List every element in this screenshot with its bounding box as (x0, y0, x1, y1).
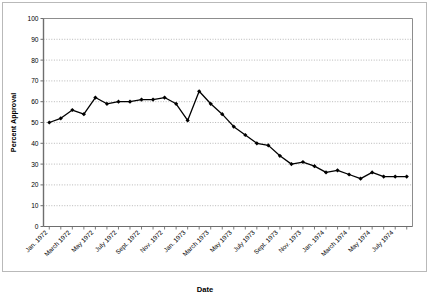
chart-canvas: 0102030405060708090100Jan. 1972March 197… (0, 0, 429, 304)
y-tick-label: 10 (31, 202, 39, 209)
y-tick-label: 60 (31, 98, 39, 105)
y-tick-label: 30 (31, 161, 39, 168)
y-tick-label: 90 (31, 36, 39, 43)
y-tick-label: 70 (31, 77, 39, 84)
y-tick-label: 50 (31, 119, 39, 126)
y-tick-label: 40 (31, 140, 39, 147)
approval-rating-chart: 0102030405060708090100Jan. 1972March 197… (0, 0, 429, 304)
y-tick-label: 100 (27, 15, 38, 22)
x-axis-title: Date (197, 285, 213, 294)
y-tick-label: 0 (35, 223, 39, 230)
y-axis-title: Percent Approval (9, 93, 18, 152)
y-tick-label: 80 (31, 57, 39, 64)
y-tick-label: 20 (31, 181, 39, 188)
